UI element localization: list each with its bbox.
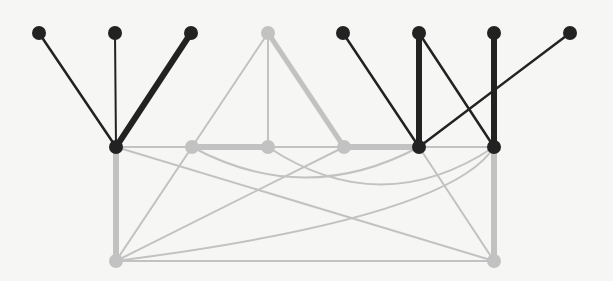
node-t3 (184, 26, 198, 40)
node-m1 (109, 140, 123, 154)
node-m3 (261, 140, 275, 154)
node-m5 (412, 140, 426, 154)
node-t1 (32, 26, 46, 40)
graph-diagram (0, 0, 613, 281)
node-t5 (336, 26, 350, 40)
node-b2 (487, 254, 501, 268)
background (0, 0, 613, 281)
node-m4 (337, 140, 351, 154)
node-t8 (563, 26, 577, 40)
node-m6 (487, 140, 501, 154)
node-m2 (185, 140, 199, 154)
node-b1 (109, 254, 123, 268)
node-t2 (108, 26, 122, 40)
edge-t2-m1 (115, 33, 116, 147)
node-t4 (261, 26, 275, 40)
node-t7 (487, 26, 501, 40)
node-t6 (412, 26, 426, 40)
